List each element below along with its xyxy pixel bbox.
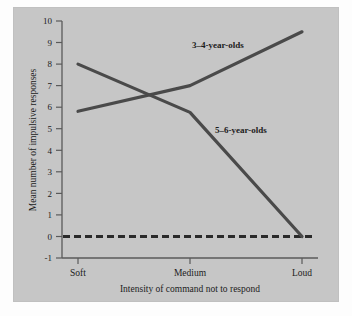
series-line-3-4-year-olds [78, 32, 302, 112]
y-tick-label-10: 10 [43, 16, 53, 26]
x-tick-label-loud: Loud [292, 268, 312, 278]
y-axis-ticks [56, 21, 62, 258]
series-line-5-6-year-olds [78, 64, 302, 236]
y-tick-label-3: 3 [48, 167, 53, 177]
y-tick-label-neg1: -1 [45, 253, 53, 263]
line-chart: 10 9 8 7 6 5 4 3 2 1 0 -1 Soft Medium Lo… [0, 0, 352, 316]
y-tick-label-6: 6 [48, 102, 53, 112]
y-tick-label-9: 9 [48, 38, 53, 48]
y-axis-title: Mean number of impulsive responses [28, 68, 38, 211]
y-tick-label-1: 1 [48, 210, 53, 220]
y-tick-label-5: 5 [48, 124, 53, 134]
chart-figure: 10 9 8 7 6 5 4 3 2 1 0 -1 Soft Medium Lo… [0, 0, 352, 316]
x-axis-title: Intensity of command not to respond [120, 284, 260, 294]
series-label-5-6-year-olds: 5–6-year-olds [215, 125, 267, 135]
y-tick-label-4: 4 [48, 146, 53, 156]
y-tick-label-7: 7 [48, 81, 53, 91]
x-tick-label-medium: Medium [174, 268, 207, 278]
y-tick-label-8: 8 [48, 59, 53, 69]
x-tick-label-soft: Soft [70, 268, 86, 278]
x-axis-ticks [78, 258, 302, 264]
y-tick-label-0: 0 [48, 232, 53, 242]
series-label-3-4-year-olds: 3–4-year-olds [192, 40, 244, 50]
y-tick-label-2: 2 [48, 189, 53, 199]
